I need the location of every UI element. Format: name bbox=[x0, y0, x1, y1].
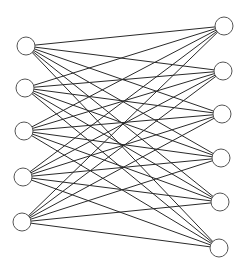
left-node-5 bbox=[13, 213, 31, 231]
right-node-1 bbox=[215, 17, 233, 35]
edge-l1-r2 bbox=[26, 46, 223, 71]
right-node-2 bbox=[214, 62, 232, 80]
right-node-5 bbox=[211, 193, 229, 211]
left-node-1 bbox=[17, 37, 35, 55]
edge-layer bbox=[22, 26, 224, 248]
right-node-6 bbox=[210, 239, 228, 257]
right-node-3 bbox=[213, 105, 231, 123]
left-node-3 bbox=[15, 122, 33, 140]
edge-l5-r6 bbox=[22, 222, 219, 248]
edge-l1-r1 bbox=[26, 26, 224, 46]
left-node-2 bbox=[16, 79, 34, 97]
left-node-4 bbox=[14, 168, 32, 186]
edge-l5-r2 bbox=[22, 71, 223, 222]
bipartite-graph bbox=[0, 0, 246, 272]
right-node-4 bbox=[212, 149, 230, 167]
